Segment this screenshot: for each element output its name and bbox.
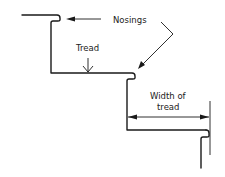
nosing-leader-line-2 <box>141 22 173 66</box>
width-of-tread-label-line2: tread <box>157 102 179 112</box>
stair-nosing-diagram: Nosings Tread Width of tread <box>0 0 225 177</box>
stair-profile-lower <box>201 130 209 168</box>
stair-profile-upper <box>22 15 206 130</box>
arrowhead-icon <box>128 115 137 120</box>
nosings-label: Nosings <box>113 15 147 25</box>
tread-label: Tread <box>75 43 99 53</box>
arrowhead-icon <box>200 115 209 120</box>
arrowhead-icon <box>138 61 145 69</box>
width-of-tread-label-line1: Width of <box>150 91 187 101</box>
arrowhead-icon <box>66 17 75 22</box>
